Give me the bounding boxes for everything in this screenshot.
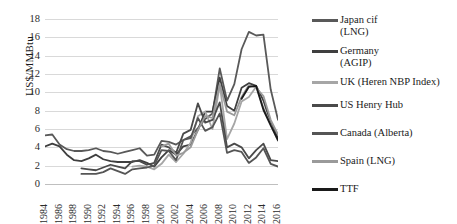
legend-label: Canada (Alberta)	[340, 127, 413, 139]
y-tick-label: 16	[14, 32, 40, 42]
y-tick-label: 14	[14, 51, 40, 61]
legend-swatch-icon	[312, 188, 338, 191]
legend-label: Japan cif (LNG)	[340, 14, 378, 37]
x-tick-label: 1998	[141, 204, 151, 224]
legend-item[interactable]: Japan cif (LNG)	[312, 14, 378, 37]
legend-swatch-icon	[312, 104, 338, 107]
legend-item[interactable]: Germany (AGIP)	[312, 45, 379, 68]
series-line-3	[81, 102, 278, 170]
x-axis-tick-labels: 1984198619881990199219941996199820002002…	[45, 186, 278, 224]
x-tick-label: 2014	[257, 204, 267, 224]
x-tick-label: 2016	[272, 204, 282, 224]
x-tick-label: 1996	[126, 204, 136, 224]
x-tick-label: 2010	[228, 204, 238, 224]
legend-item[interactable]: US Henry Hub	[312, 99, 403, 111]
legend-swatch-icon	[312, 132, 338, 135]
legend-label: TTF	[340, 183, 359, 195]
legend-item[interactable]: UK (Heren NBP Index)	[312, 76, 440, 88]
x-tick-label: 1992	[97, 204, 107, 224]
x-tick-label: 1990	[83, 204, 93, 224]
y-tick-label: 2	[14, 161, 40, 171]
legend-item[interactable]: Canada (Alberta)	[312, 127, 413, 139]
y-tick-label: 18	[14, 14, 40, 24]
y-tick-label: 12	[14, 69, 40, 79]
legend-swatch-icon	[312, 19, 338, 22]
legend-item[interactable]: Spain (LNG)	[312, 155, 395, 167]
plot-svg	[45, 19, 278, 185]
legend-swatch-icon	[312, 50, 338, 53]
x-tick-label: 2000	[156, 204, 166, 224]
x-tick-label: 2012	[243, 204, 253, 224]
y-tick-label: 10	[14, 87, 40, 97]
y-tick-label: 8	[14, 106, 40, 116]
y-tick-label: 6	[14, 124, 40, 134]
legend-label: US Henry Hub	[340, 99, 403, 111]
plot-area	[45, 19, 278, 184]
x-tick-label: 2006	[199, 204, 209, 224]
x-tick-label: 1984	[39, 204, 49, 224]
legend-item[interactable]: TTF	[312, 183, 359, 195]
legend-label: Spain (LNG)	[340, 155, 395, 167]
legend-swatch-icon	[312, 160, 338, 163]
x-tick-label: 2002	[170, 204, 180, 224]
line-chart: US$/MMBtu 181614121086420 19841986198819…	[0, 0, 457, 224]
y-tick-label: 4	[14, 142, 40, 152]
y-tick-label: 0	[14, 179, 40, 189]
legend-label: Germany (AGIP)	[340, 45, 379, 68]
legend-label: UK (Heren NBP Index)	[340, 76, 440, 88]
x-tick-label: 1994	[112, 204, 122, 224]
y-axis-tick-labels: 181614121086420	[14, 0, 40, 224]
legend-swatch-icon	[312, 81, 338, 84]
x-tick-label: 2008	[214, 204, 224, 224]
x-tick-label: 1988	[68, 204, 78, 224]
x-tick-label: 1986	[54, 204, 64, 224]
x-tick-label: 2004	[185, 204, 195, 224]
